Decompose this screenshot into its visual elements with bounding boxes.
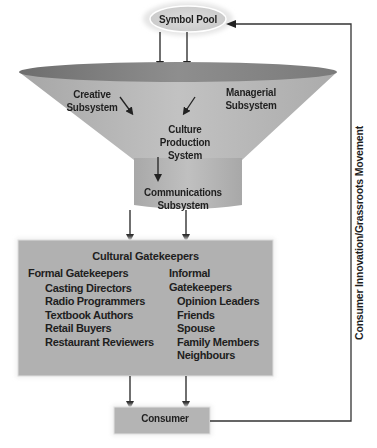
informal-heading: Informal Gatekeepers bbox=[169, 267, 273, 294]
culture-production-system-label: Culture Production System bbox=[145, 123, 226, 162]
managerial-line-2: Subsystem bbox=[215, 99, 287, 112]
informal-gatekeepers-column: Informal Gatekeepers Opinion Leaders Fri… bbox=[169, 267, 273, 363]
informal-item: Friends bbox=[169, 309, 273, 323]
culture-line-1: Culture bbox=[145, 123, 226, 136]
feedback-label: Consumer Innovation/Grassroots Movement bbox=[353, 126, 365, 340]
creative-line-1: Creative bbox=[56, 88, 128, 101]
comms-line-1: Communications bbox=[120, 186, 246, 199]
funnel-rim bbox=[19, 62, 337, 82]
informal-item: Neighbours bbox=[169, 349, 273, 363]
culture-line-2: Production bbox=[145, 136, 226, 149]
communications-subsystem-label: Communications Subsystem bbox=[120, 186, 246, 212]
consumer-label: Consumer bbox=[129, 412, 201, 425]
comms-line-2: Subsystem bbox=[120, 199, 246, 212]
informal-item: Spouse bbox=[169, 322, 273, 336]
managerial-line-1: Managerial bbox=[215, 86, 287, 99]
formal-item: Casting Directors bbox=[28, 282, 154, 296]
diagram-graphics bbox=[0, 0, 377, 448]
informal-item: Opinion Leaders bbox=[169, 295, 273, 309]
formal-item: Restaurant Reviewers bbox=[28, 336, 154, 350]
cultural-gatekeepers-box: Cultural Gatekeepers Formal Gatekeepers … bbox=[18, 240, 273, 376]
formal-item: Radio Programmers bbox=[28, 295, 154, 309]
formal-item: Retail Buyers bbox=[28, 322, 154, 336]
creative-line-2: Subsystem bbox=[56, 101, 128, 114]
informal-item: Family Members bbox=[169, 336, 273, 350]
symbol-pool-label: Symbol Pool bbox=[152, 13, 224, 26]
culture-line-3: System bbox=[145, 149, 226, 162]
managerial-subsystem-label: Managerial Subsystem bbox=[215, 86, 287, 112]
formal-gatekeepers-column: Formal Gatekeepers Casting Directors Rad… bbox=[28, 267, 154, 349]
gatekeepers-title: Cultural Gatekeepers bbox=[18, 250, 273, 262]
creative-subsystem-label: Creative Subsystem bbox=[56, 88, 128, 114]
formal-item: Textbook Authors bbox=[28, 309, 154, 323]
formal-heading: Formal Gatekeepers bbox=[28, 267, 154, 281]
